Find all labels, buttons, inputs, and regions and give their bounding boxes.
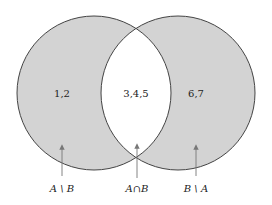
label-a-minus-b: A \ B [49,183,74,194]
venn-diagram: 1,2 3,4,5 6,7 A \ B A∩B B \ A [0,0,272,205]
label-a-intersect-b: A∩B [125,183,149,194]
region-b-only-elements: 6,7 [188,88,204,99]
region-a-only-elements: 1,2 [54,88,70,99]
region-intersection-elements: 3,4,5 [123,88,148,99]
label-b-minus-a: B \ A [183,183,208,194]
